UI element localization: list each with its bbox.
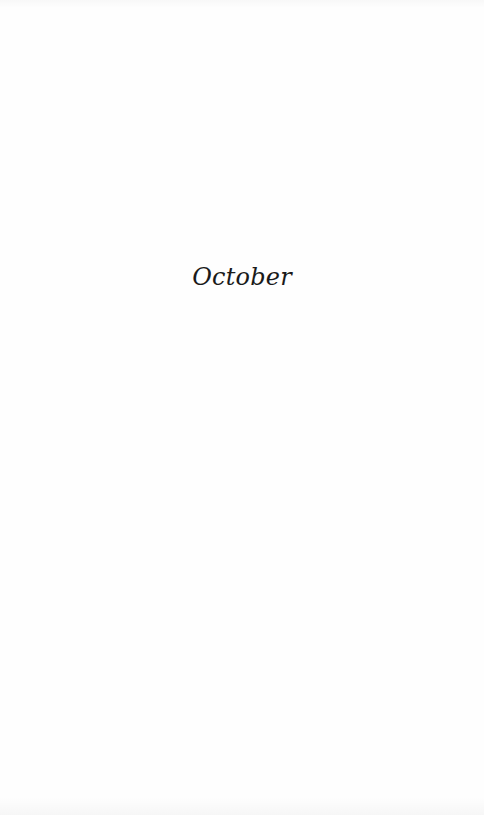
page-edge-bottom xyxy=(0,797,484,815)
page-edge-top xyxy=(0,0,484,8)
book-page: October xyxy=(0,0,484,815)
page-title: October xyxy=(0,262,484,292)
